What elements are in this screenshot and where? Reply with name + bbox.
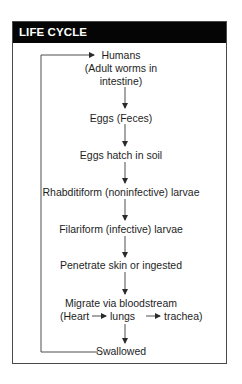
node-swallowed: Swallowed <box>0 345 242 358</box>
node-rhabditiform: Rhabditiform (noninfective) larvae <box>0 186 242 199</box>
node-penetrate: Penetrate skin or ingested <box>0 259 242 272</box>
node-migrate: Migrate via bloodstream <box>0 297 242 310</box>
node-filariform: Filariform (infective) larvae <box>0 223 242 236</box>
node-humans: Humans (Adult worms in intestine) <box>0 49 242 88</box>
node-eggs-feces: Eggs (Feces) <box>0 112 242 125</box>
node-eggs-hatch: Eggs hatch in soil <box>0 149 242 162</box>
